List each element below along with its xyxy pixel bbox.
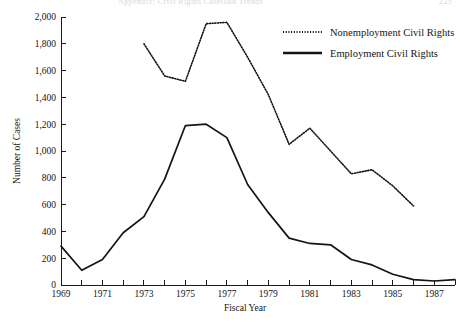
x-axis-tick-labels: 1969197119731975197719791981198319851987 <box>52 289 445 299</box>
x-axis-tick-label: 1979 <box>259 289 278 299</box>
y-axis-tick-label: 400 <box>42 227 57 237</box>
x-axis-tick-label: 1975 <box>176 289 195 299</box>
legend-label-employment: Employment Civil Rights <box>330 48 438 59</box>
series-line-employment-civil-rights <box>61 124 455 281</box>
x-axis-tick-label: 1981 <box>300 289 319 299</box>
y-axis-ticks <box>61 17 66 285</box>
chart-legend: Nonemployment Civil Rights Employment Ci… <box>283 27 454 59</box>
y-axis-tick-label: 1,200 <box>35 120 57 130</box>
y-axis-tick-label: 1,600 <box>35 66 57 76</box>
legend-item-employment: Employment Civil Rights <box>283 48 438 59</box>
y-axis-tick-label: 1,000 <box>35 146 57 156</box>
y-axis-tick-labels: 02004006008001,0001,2001,4001,6001,8002,… <box>35 12 57 290</box>
legend-label-nonemployment: Nonemployment Civil Rights <box>330 27 454 38</box>
x-axis-title: Fiscal Year <box>224 303 267 313</box>
x-axis-tick-label: 1977 <box>217 289 236 299</box>
x-axis-tick-label: 1969 <box>52 289 71 299</box>
x-axis-ticks <box>61 280 455 285</box>
y-axis-title: Number of Cases <box>12 118 22 184</box>
x-axis-tick-label: 1971 <box>93 289 112 299</box>
x-axis-tick-label: 1973 <box>134 289 153 299</box>
x-axis-tick-label: 1983 <box>342 289 361 299</box>
x-axis: 1969197119731975197719791981198319851987… <box>52 280 456 313</box>
line-chart: 02004006008001,0001,2001,4001,6001,8002,… <box>0 0 466 323</box>
legend-item-nonemployment: Nonemployment Civil Rights <box>283 27 454 38</box>
data-series-group <box>61 22 455 281</box>
figure-container: Appendix: Civil Rights Caseload Trends 2… <box>0 0 466 323</box>
y-axis-tick-label: 800 <box>42 173 57 183</box>
y-axis-tick-label: 600 <box>42 200 57 210</box>
y-axis: 02004006008001,0001,2001,4001,6001,8002,… <box>12 12 66 290</box>
y-axis-tick-label: 1,400 <box>35 93 57 103</box>
y-axis-tick-label: 2,000 <box>35 12 57 22</box>
x-axis-tick-label: 1985 <box>383 289 402 299</box>
y-axis-tick-label: 1,800 <box>35 39 57 49</box>
x-axis-tick-label: 1987 <box>425 289 444 299</box>
y-axis-tick-label: 200 <box>42 254 57 264</box>
